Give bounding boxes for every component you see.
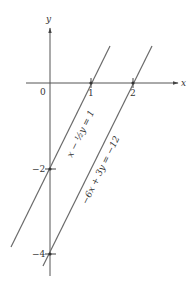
- y-tick-label-minus-2: −2: [32, 164, 45, 174]
- point-y-4: [48, 252, 51, 255]
- line-2-label: −6x + 3y = −12: [80, 134, 122, 206]
- origin-label: 0: [40, 87, 46, 97]
- point-x2: [131, 81, 134, 84]
- diagram: x y 0 1 2 −2 −4 x − ½y = 1 −6x + 3y = −1…: [0, 0, 196, 287]
- line-2: [43, 46, 152, 266]
- point-x1: [89, 81, 92, 84]
- y-tick-label-minus-4: −4: [32, 249, 46, 259]
- x-axis-label: x: [181, 78, 186, 88]
- y-axis-label: y: [45, 14, 52, 24]
- line-1: [11, 46, 110, 247]
- point-y-2: [48, 167, 51, 170]
- line-1-label: x − ½y = 1: [65, 109, 96, 159]
